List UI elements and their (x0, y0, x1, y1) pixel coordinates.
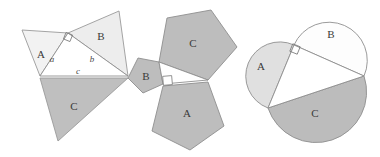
pentagon-label-B: B (142, 70, 149, 82)
triangle-label-A: A (37, 48, 45, 60)
semicircle-label-B: B (327, 28, 334, 40)
right-angle-marker (163, 76, 173, 86)
regular-pentagons-panel: A B C (128, 10, 237, 150)
side-label-b: b (90, 54, 95, 64)
semicircle-label-A: A (257, 60, 265, 72)
pentagon-label-A: A (183, 107, 191, 119)
pythagorean-figure-board: A B C a b c A B C (0, 0, 380, 157)
semicircles-panel: A B C (246, 22, 368, 142)
pentagon-label-C: C (189, 37, 196, 49)
similar-triangles-panel: A B C a b c (22, 11, 128, 141)
semicircle-label-C: C (311, 107, 318, 119)
triangle-shape-C (40, 78, 128, 141)
side-label-c: c (76, 66, 80, 76)
figure-svg: A B C a b c A B C (0, 0, 380, 157)
triangle-label-B: B (97, 30, 104, 42)
side-label-a: a (50, 54, 55, 64)
triangle-label-C: C (70, 100, 77, 112)
